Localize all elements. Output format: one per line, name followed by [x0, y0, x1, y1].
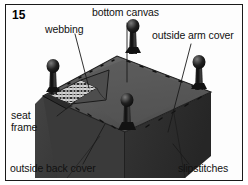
label-webbing: webbing [45, 24, 83, 35]
label-slipstitches: slipstitches [178, 163, 228, 174]
label-outside-arm-cover: outside arm cover [152, 30, 234, 41]
figure-number: 15 [12, 8, 25, 22]
label-outside-back-cover: outside back cover [10, 163, 96, 174]
label-bottom-canvas: bottom canvas [92, 7, 159, 18]
label-seat-frame-line2: frame [11, 121, 37, 133]
label-seat-frame-line1: seat [11, 109, 30, 121]
chair-leg-rear-left [46, 59, 60, 94]
figure-illustration-15: 15 bottom canvas webbing outside arm cov… [0, 0, 248, 185]
label-seat-frame: seat frame [11, 110, 57, 133]
